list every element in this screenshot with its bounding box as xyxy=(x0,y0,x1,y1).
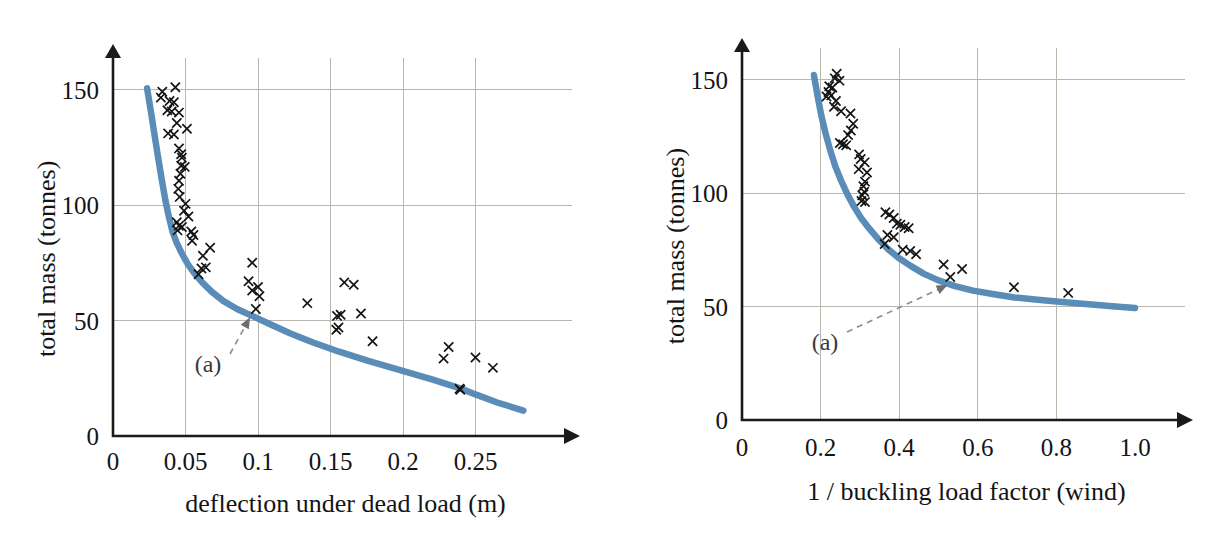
y-tick-label: 0 xyxy=(716,407,729,434)
scatter-point-marker xyxy=(340,278,349,287)
x-axis-title: deflection under dead load (m) xyxy=(185,489,506,518)
scatter-point-marker xyxy=(1064,288,1073,297)
scatter-point-marker xyxy=(248,258,257,267)
callout-leader-line xyxy=(230,324,246,354)
trade-off-curve-figure: 00.050.10.150.20.25050100150deflection u… xyxy=(0,0,1222,542)
tick-labels: 00.050.10.150.20.25050100150 xyxy=(62,77,498,476)
scatter-point-marker xyxy=(182,124,191,133)
y-axis-arrow-icon xyxy=(734,38,750,52)
y-tick-label: 100 xyxy=(691,180,729,207)
y-tick-label: 50 xyxy=(703,294,728,321)
callout-arrow-icon xyxy=(241,317,250,329)
x-tick-label: 0.2 xyxy=(387,448,418,475)
callout-label-a: (a) xyxy=(195,351,222,377)
callout-a: (a) xyxy=(812,285,948,355)
x-tick-label: 0.6 xyxy=(962,434,993,461)
x-tick-label: 0.2 xyxy=(805,434,836,461)
scatter-point-marker xyxy=(862,168,871,177)
y-axis-arrow-icon xyxy=(105,44,121,58)
scatter-point-marker xyxy=(854,165,863,174)
chart-panel-buckling: 00.20.40.60.81.00501001501 / buckling lo… xyxy=(611,0,1222,542)
x-tick-label: 0.05 xyxy=(164,448,208,475)
axes xyxy=(734,38,1193,428)
x-axis-arrow-icon xyxy=(1177,412,1193,428)
scatter-point-marker xyxy=(1009,283,1018,292)
chart-svg-left: 00.050.10.150.20.25050100150deflection u… xyxy=(0,0,611,542)
x-tick-label: 0 xyxy=(736,434,749,461)
scatter-point-marker xyxy=(174,184,183,193)
tick-labels: 00.20.40.60.81.0050100150 xyxy=(691,67,1151,462)
axis-lines xyxy=(742,50,1179,420)
scatter-point-marker xyxy=(255,292,264,301)
y-tick-label: 100 xyxy=(62,192,100,219)
scatter-point-marker xyxy=(179,206,188,215)
trade-off-curve xyxy=(814,75,1135,308)
y-tick-label: 0 xyxy=(87,423,100,450)
scatter-point-marker xyxy=(303,299,312,308)
scatter-point-marker xyxy=(444,342,453,351)
scatter-point-marker xyxy=(174,108,183,117)
x-tick-label: 0.15 xyxy=(309,448,353,475)
y-axis-title: total mass (tonnes) xyxy=(32,161,61,357)
y-axis-title-group: total mass (tonnes) xyxy=(32,161,61,357)
x-tick-label: 1.0 xyxy=(1119,434,1150,461)
callout-label-a: (a) xyxy=(812,329,839,355)
scatter-point-marker xyxy=(849,119,858,128)
scatter-point-marker xyxy=(172,118,181,127)
gridlines xyxy=(742,48,1185,420)
scatter-point-marker xyxy=(957,264,966,273)
y-axis-title: total mass (tonnes) xyxy=(661,148,690,344)
chart-svg-right: 00.20.40.60.81.00501001501 / buckling lo… xyxy=(611,0,1222,542)
scatter-point-marker xyxy=(171,83,180,92)
scatter-series xyxy=(822,69,1073,297)
y-axis-title-group: total mass (tonnes) xyxy=(661,148,690,344)
y-tick-label: 150 xyxy=(62,77,100,104)
x-tick-label: 0.1 xyxy=(242,448,273,475)
scatter-point-marker xyxy=(198,251,207,260)
x-axis-title: 1 / buckling load factor (wind) xyxy=(807,477,1125,506)
scatter-point-marker xyxy=(169,130,178,139)
x-tick-label: 0.25 xyxy=(454,448,498,475)
scatter-point-marker xyxy=(946,272,955,281)
scatter-point-marker xyxy=(332,325,341,334)
callout-leader-line xyxy=(847,288,940,332)
x-tick-label: 0.4 xyxy=(884,434,916,461)
scatter-point-marker xyxy=(244,277,253,286)
scatter-point-marker xyxy=(939,260,948,269)
scatter-point-marker xyxy=(439,354,448,363)
callout-a: (a) xyxy=(195,317,250,377)
scatter-point-marker xyxy=(356,309,365,318)
scatter-point-marker xyxy=(846,109,855,118)
y-tick-label: 150 xyxy=(691,67,729,94)
scatter-point-marker xyxy=(251,304,260,313)
x-tick-label: 0.8 xyxy=(1041,434,1072,461)
y-tick-label: 50 xyxy=(74,308,99,335)
scatter-point-marker xyxy=(844,131,853,140)
x-axis-arrow-icon xyxy=(564,428,580,444)
scatter-point-marker xyxy=(349,280,358,289)
x-tick-label: 0 xyxy=(107,448,120,475)
scatter-point-marker xyxy=(368,337,377,346)
chart-panel-deflection: 00.050.10.150.20.25050100150deflection u… xyxy=(0,0,611,542)
scatter-point-marker xyxy=(488,363,497,372)
